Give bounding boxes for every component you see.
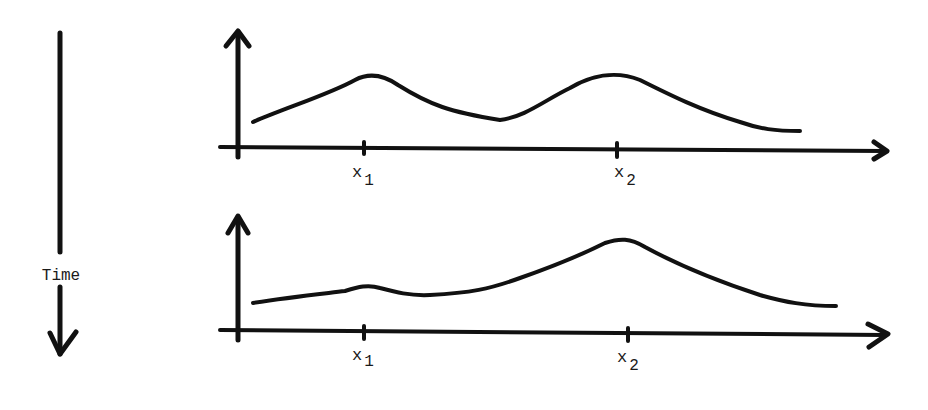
diagram-canvas: Time x1 x2 x1 x2	[0, 0, 928, 410]
time-label: Time	[42, 267, 80, 285]
tick-label-x2: x2	[614, 163, 636, 190]
x-axis	[220, 147, 885, 151]
distribution-curve	[253, 240, 836, 306]
panel-bottom: x1 x2	[220, 216, 888, 375]
arrow-down-icon	[50, 332, 76, 354]
tick-label-x1: x1	[352, 346, 374, 371]
tick-label-x2: x2	[617, 348, 639, 375]
tick-label-x1: x1	[352, 163, 374, 190]
panel-top: x1 x2	[220, 31, 887, 190]
distribution-curve	[253, 75, 800, 131]
time-arrow	[50, 33, 76, 354]
x-axis	[220, 330, 885, 335]
